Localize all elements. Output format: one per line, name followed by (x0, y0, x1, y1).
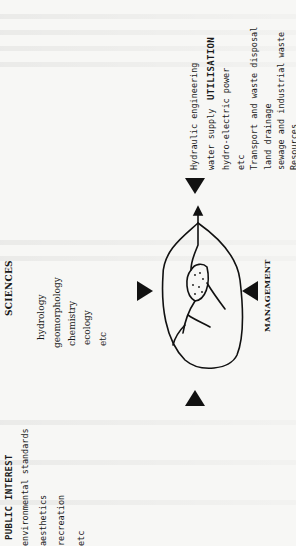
bleed-line (0, 14, 296, 19)
utilisation-item: water supply (206, 109, 216, 170)
sciences-item: chemistry (67, 301, 77, 346)
utilisation-item: Hydraulic engineering (189, 63, 199, 170)
public-interest-item: aesthetics (38, 495, 48, 546)
arrow-up-icon (185, 390, 205, 406)
public-interest-item: recreation (56, 495, 66, 546)
sciences-item: hydrology (36, 294, 46, 340)
public-interest-item: environmental standards (20, 428, 30, 546)
arrow-right-icon (137, 281, 153, 301)
arrow-down-icon (185, 178, 205, 194)
bleed-line (0, 240, 296, 245)
catchment-drainage-basin-icon (155, 205, 250, 375)
management-heading: MANAGEMENT (262, 259, 272, 332)
bleed-line (0, 256, 296, 261)
bleed-line (0, 420, 296, 425)
utilisation-heading: UTILISATION (206, 37, 216, 100)
public-interest-item: etc (76, 531, 86, 546)
utilisation-item: land drainage (263, 103, 273, 170)
sciences-item: geomorphology (52, 277, 62, 348)
utilisation-item: etc (236, 155, 246, 170)
sciences-heading: SCIENCES (4, 260, 14, 316)
utilisation-item: Resources (289, 124, 296, 170)
utilisation-item: sewage and industrial waste (276, 32, 286, 170)
utilisation-item: Transport and waste disposal (249, 27, 259, 170)
utilisation-item: hydro-electric power (221, 68, 231, 170)
sciences-item: etc (98, 332, 108, 346)
bleed-line (0, 460, 296, 465)
public-interest-heading: PUBLIC INTEREST (4, 454, 14, 540)
sciences-item: ecology (82, 310, 92, 345)
